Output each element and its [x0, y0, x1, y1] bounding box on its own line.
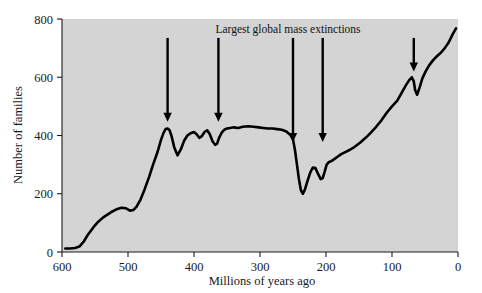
mass-extinction-annotation-label: Largest global mass extinctions [215, 23, 361, 36]
x-axis-title: Millions of years ago [209, 274, 316, 288]
y-axis-title: Number of families [11, 86, 25, 184]
x-tick-label: 300 [251, 260, 270, 274]
extinction-chart-figure: 0200400600800 6005004003002001000 Number… [0, 0, 482, 293]
chart-svg: 0200400600800 6005004003002001000 Number… [0, 0, 482, 293]
y-tick-label: 200 [34, 187, 53, 201]
x-tick-label: 500 [119, 260, 138, 274]
y-tick-label: 0 [47, 246, 53, 260]
y-tick-label: 600 [34, 71, 53, 85]
y-tick-label: 800 [34, 13, 53, 27]
x-tick-label: 600 [53, 260, 72, 274]
y-tick-label: 400 [34, 129, 53, 143]
x-tick-label: 0 [455, 260, 461, 274]
x-tick-label: 100 [383, 260, 402, 274]
x-tick-label: 400 [185, 260, 204, 274]
x-tick-label: 200 [317, 260, 336, 274]
plot-area-background [62, 19, 458, 252]
